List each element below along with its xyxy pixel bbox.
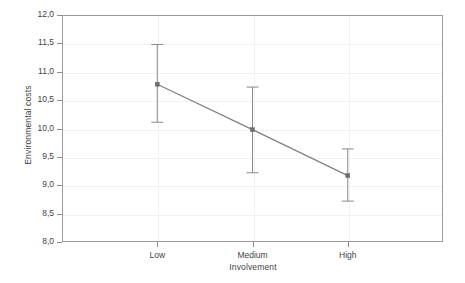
data-series-layer <box>0 0 465 283</box>
x-axis-title: Involvement <box>62 262 444 272</box>
data-point-marker <box>346 174 350 178</box>
data-point-marker <box>155 82 159 86</box>
chart-container: Environmental costs 12,011,511,010,510,0… <box>0 0 465 283</box>
data-point-marker <box>251 128 255 132</box>
